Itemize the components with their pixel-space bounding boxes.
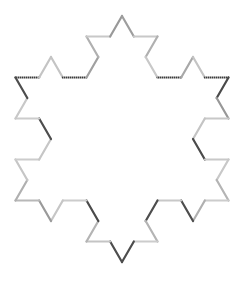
- snowflake-segment: [86, 37, 98, 58]
- snowflake-segment: [181, 201, 193, 222]
- snowflake-segment: [15, 98, 27, 119]
- snowflake-segment: [15, 160, 27, 181]
- snowflake-segment: [193, 201, 205, 222]
- snowflake-segment: [110, 16, 122, 37]
- snowflake-segment: [51, 57, 63, 78]
- snowflake-segment: [39, 139, 51, 160]
- snowflake-segment: [39, 119, 51, 140]
- snowflake-segment: [39, 201, 51, 222]
- snowflake-segment: [217, 98, 229, 119]
- snowflake-segment: [146, 57, 158, 78]
- snowflake-segment: [86, 57, 98, 78]
- snowflake-segment: [15, 78, 27, 99]
- snowflake-segment: [146, 37, 158, 58]
- snowflake-segment: [146, 201, 158, 222]
- snowflake-segment: [217, 78, 229, 99]
- snowflake-segment: [146, 221, 158, 242]
- snowflake-segment: [217, 180, 229, 201]
- snowflake-segment: [122, 16, 134, 37]
- snowflake-segment: [110, 242, 122, 263]
- snowflake-segment: [122, 242, 134, 263]
- snowflake-segment: [181, 57, 193, 78]
- koch-snowflake-figure: [0, 0, 241, 282]
- snowflake-segment: [39, 57, 51, 78]
- snowflake-segment: [193, 119, 205, 140]
- figure-canvas: [0, 0, 241, 282]
- snowflake-outline: [15, 16, 228, 262]
- snowflake-segment: [217, 160, 229, 181]
- snowflake-segment: [86, 201, 98, 222]
- snowflake-segment: [51, 201, 63, 222]
- snowflake-segment: [193, 57, 205, 78]
- snowflake-segment: [15, 180, 27, 201]
- snowflake-segment: [193, 139, 205, 160]
- snowflake-segment: [86, 221, 98, 242]
